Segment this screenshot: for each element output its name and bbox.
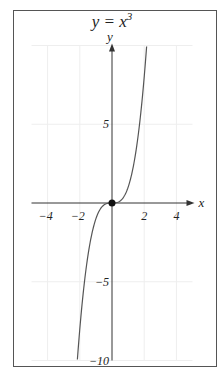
plot-area: xy −4−2245−5−10 y = x3 xyxy=(0,0,224,379)
y-tick-label: 5 xyxy=(103,117,109,131)
x-tick-label: 2 xyxy=(141,209,147,223)
axes: xy xyxy=(32,29,205,361)
x-tick-label: −2 xyxy=(71,209,85,223)
y-tick-label: −10 xyxy=(89,354,109,368)
x-tick-label: −4 xyxy=(39,209,53,223)
y-axis-arrow-icon xyxy=(109,44,115,52)
chart-title: y = x3 xyxy=(90,10,133,31)
x-axis-label: x xyxy=(198,195,205,210)
origin-point xyxy=(109,200,116,207)
x-tick-label: 4 xyxy=(173,209,179,223)
y-tick-label: −5 xyxy=(95,275,109,289)
tick-labels: −4−2245−5−10 xyxy=(39,117,180,367)
x-axis-arrow-icon xyxy=(187,200,195,206)
